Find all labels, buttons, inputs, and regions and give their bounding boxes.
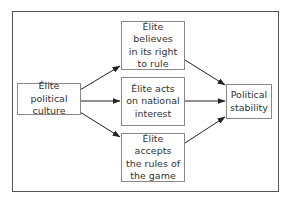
node-political-stability: Political stability (226, 84, 272, 119)
arrow-culture-to-belief (80, 66, 120, 90)
node-accepts-rules: Élite accepts the rules of the game (121, 133, 185, 182)
arrow-culture-to-rules (80, 112, 120, 137)
node-label: Élite accepts the rules of the game (123, 133, 183, 183)
node-belief-right-to-rule: Élite believes in its right to rule (121, 21, 185, 70)
node-elite-political-culture: Élite political culture (17, 83, 81, 115)
node-label: Élite acts on national interest (126, 83, 179, 121)
node-label: Political stability (230, 89, 268, 114)
node-label: Élite political culture (19, 80, 79, 118)
node-national-interest: Élite acts on national interest (121, 77, 185, 126)
arrow-belief-to-stability (185, 60, 225, 85)
node-label: Élite believes in its right to rule (123, 21, 183, 71)
arrow-rules-to-stability (185, 117, 225, 143)
